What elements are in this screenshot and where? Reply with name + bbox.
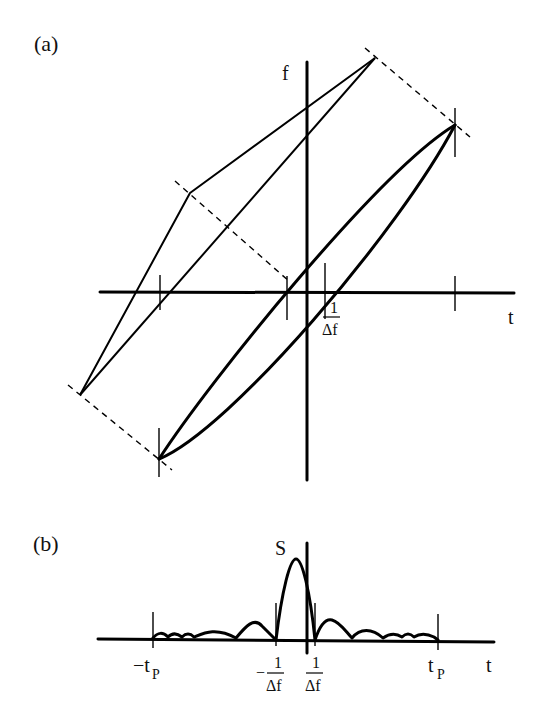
pos-tp-subscript: P <box>437 667 445 682</box>
t-axis-label-a: t <box>508 306 514 328</box>
s-axis-label: S <box>275 537 286 559</box>
panel-b-label: (b) <box>33 531 59 556</box>
pos-inv-df-numerator: 1 <box>312 654 320 671</box>
panel-a: (a) f t 1 Δf <box>34 31 514 480</box>
panel-a-label: (a) <box>34 31 58 56</box>
pos-inv-df-denominator: Δf <box>305 677 321 694</box>
t-axis-b <box>98 639 494 642</box>
figure: (a) f t 1 Δf (b) S t <box>0 0 542 719</box>
neg-inv-df-numerator: 1 <box>274 654 282 671</box>
sidelobe-response <box>153 559 438 640</box>
t-axis-label-b: t <box>486 654 492 676</box>
pos-tp-label: t <box>428 654 434 676</box>
panel-b: (b) S t −t P t P − 1 Δf 1 Δf <box>33 531 494 694</box>
neg-tp-label: −t <box>133 654 150 676</box>
dashed-bottom <box>68 385 172 470</box>
f-axis-label: f <box>282 62 289 84</box>
neg-inv-df-sign: − <box>256 664 265 681</box>
neg-tp-subscript: P <box>152 667 160 682</box>
inv-df-denominator-a: Δf <box>322 321 338 338</box>
dashed-top <box>365 48 470 137</box>
neg-inv-df-denominator: Δf <box>266 677 282 694</box>
